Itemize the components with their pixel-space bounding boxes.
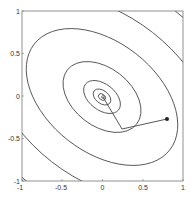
contour-7 bbox=[0, 0, 192, 198]
y-tick-label: 1 bbox=[16, 8, 20, 15]
x-tick-labels: -1 -0.5 0 0.5 1 bbox=[17, 184, 185, 191]
x-tick-label: -1 bbox=[17, 184, 23, 191]
y-tick-label: -0.5 bbox=[8, 135, 20, 142]
y-tick-label: 0.5 bbox=[10, 50, 20, 57]
x-tick-label: -0.5 bbox=[55, 184, 67, 191]
y-tick-label: -1 bbox=[14, 178, 20, 185]
contour-5 bbox=[0, 1, 192, 194]
descent-path bbox=[103, 97, 167, 129]
contour-plot: -1 -0.5 0 0.5 1 1 0.5 0 -0.5 -1 bbox=[0, 0, 192, 198]
y-tick-label: 0 bbox=[16, 93, 20, 100]
contour-lines bbox=[0, 0, 192, 198]
x-tick-label: 1 bbox=[181, 184, 185, 191]
contour-4 bbox=[49, 47, 154, 147]
contour-6 bbox=[0, 0, 192, 198]
start-point bbox=[165, 117, 169, 121]
x-tick-label: 0 bbox=[101, 184, 105, 191]
x-tick-label: 0.5 bbox=[138, 184, 148, 191]
contour-2 bbox=[90, 86, 114, 109]
y-tick-labels: 1 0.5 0 -0.5 -1 bbox=[8, 8, 20, 185]
contour-3 bbox=[77, 74, 126, 120]
